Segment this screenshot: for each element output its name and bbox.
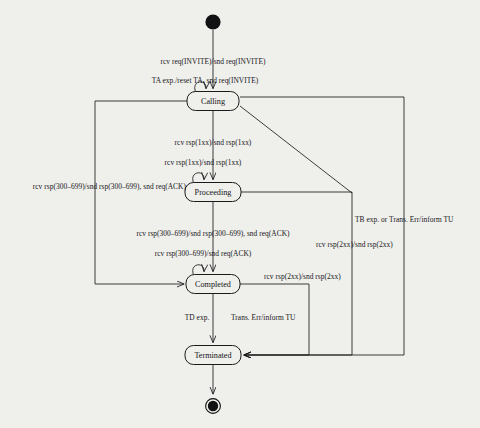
state-label-completed: Completed [195, 280, 231, 289]
transition-label-calling-self: TA exp./reset TA, snd req(INVITE) [152, 77, 259, 84]
transition-label-completed-err: Trans. Err/inform TU [231, 314, 295, 321]
transition-label-tb-terminated: TB exp. or Trans. Err/inform TU [355, 216, 454, 223]
transition-label-init-calling: rcv req(INVITE)/snd req(INVITE) [161, 58, 266, 65]
final-node-inner-dot [208, 401, 218, 411]
state-label-proceeding: Proceeding [195, 188, 232, 197]
transition-label-completed-self: rcv rsp(300–699)/snd req(ACK) [155, 250, 252, 257]
edge-calling-2xx-to-terminated [240, 106, 352, 193]
transition-label-completed-td: TD exp. [185, 314, 210, 321]
transition-label-proceeding-self: rcv rsp(1xx)/snd rsp(1xx) [165, 159, 242, 166]
transition-label-calling-proceeding: rcv rsp(1xx)/snd rsp(1xx) [175, 139, 252, 146]
transition-label-calling-terminated: rcv rsp(2xx)/snd rsp(2xx) [264, 273, 341, 280]
state-label-terminated: Terminated [194, 351, 231, 360]
transition-label-proc-terminated: rcv rsp(2xx)/snd rsp(2xx) [316, 241, 393, 248]
transition-label-calling-completed: rcv rsp(300–699)/snd rsp(300–699), snd r… [33, 183, 186, 190]
transition-label-proc-completed: rcv rsp(300–699)/snd rsp(300–699), snd r… [136, 230, 289, 237]
initial-node [205, 14, 220, 29]
state-label-calling: Calling [201, 97, 225, 106]
